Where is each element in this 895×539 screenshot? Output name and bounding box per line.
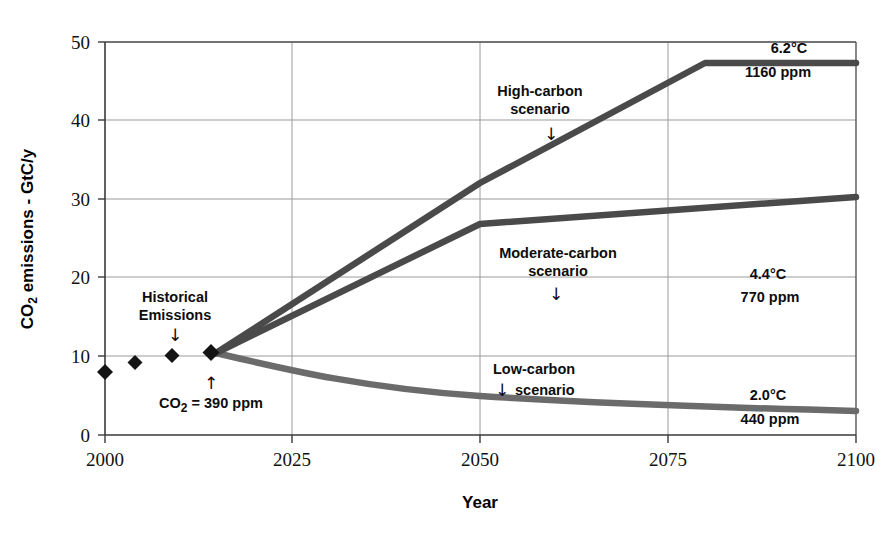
xtick-label-2025: 2025 (273, 449, 311, 470)
annotation-high-carbon-line2: scenario (510, 101, 570, 117)
annotation-co2-suffix: = 390 ppm (188, 395, 263, 411)
annotation-co2-prefix: CO (159, 395, 181, 411)
endpoint-high-carbon-concentration: 1160 ppm (745, 64, 811, 80)
ytick-label-0: 0 (81, 425, 91, 446)
annotation-moderate-carbon-line1: Moderate-carbon (499, 245, 617, 261)
endpoint-low-carbon-temperature: 2.0°C (750, 387, 787, 403)
annotation-high-carbon-line1: High-carbon (497, 83, 582, 99)
xtick-label-2100: 2100 (837, 449, 875, 470)
ytick-label-30: 30 (71, 189, 90, 210)
ytick-label-10: 10 (71, 346, 90, 367)
y-axis-title-rest: emissions - GtC/y (18, 148, 37, 297)
annotation-low-carbon-line1: Low-carbon (493, 361, 575, 377)
x-axis-title: Year (462, 493, 498, 512)
y-axis-title-prefix: CO (18, 304, 37, 330)
xtick-label-2075: 2075 (649, 449, 687, 470)
annotation-low-carbon-line2: scenario (515, 382, 575, 398)
down-arrow-icon: ↓ (168, 325, 182, 345)
endpoint-moderate-carbon-temperature: 4.4°C (750, 266, 787, 282)
endpoint-low-carbon-concentration: 440 ppm (741, 411, 800, 427)
xtick-label-2050: 2050 (461, 449, 499, 470)
endpoint-moderate-carbon-concentration: 770 ppm (741, 289, 800, 305)
down-arrow-icon: ↓ (495, 380, 509, 400)
ytick-label-50: 50 (71, 32, 90, 53)
chart-figure: 50 40 30 20 10 0 2000 2025 2050 2075 210… (0, 0, 895, 539)
down-arrow-icon: ↓ (549, 284, 563, 304)
down-arrow-icon: ↓ (544, 124, 558, 144)
co2-emissions-scenarios-chart: 50 40 30 20 10 0 2000 2025 2050 2075 210… (0, 0, 895, 539)
annotation-historical-line2: Emissions (139, 307, 212, 323)
annotation-moderate-carbon-line2: scenario (528, 263, 588, 279)
ytick-label-40: 40 (71, 110, 90, 131)
ytick-label-20: 20 (71, 267, 90, 288)
endpoint-high-carbon-temperature: 6.2°C (771, 40, 808, 56)
up-arrow-icon: ↑ (204, 373, 218, 393)
xtick-label-2000: 2000 (86, 449, 124, 470)
annotation-historical-line1: Historical (142, 289, 208, 305)
